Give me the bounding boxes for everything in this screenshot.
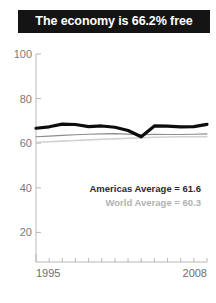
y-tick-label-40: 40 (20, 182, 32, 194)
x-axis-ticks (36, 254, 207, 262)
economic-freedom-chart: The economy is 66.2% free 100 80 60 40 2… (0, 0, 216, 303)
y-tick-label-100: 100 (14, 48, 32, 60)
y-tick-label-80: 80 (20, 93, 32, 105)
x-tick-label-end: 2008 (183, 267, 207, 279)
y-tick-label-20: 20 (20, 226, 32, 238)
legend-americas-average: Americas Average = 61.6 (89, 183, 201, 194)
legend-world-average: World Average = 60.3 (106, 197, 201, 208)
y-tick-label-60: 60 (20, 137, 32, 149)
world-average-line (36, 137, 207, 143)
x-tick-label-start: 1995 (36, 267, 60, 279)
y-axis-ticks (36, 54, 41, 232)
chart-plot-area: 100 80 60 40 20 1995 2008 Americas Avera… (0, 0, 216, 303)
